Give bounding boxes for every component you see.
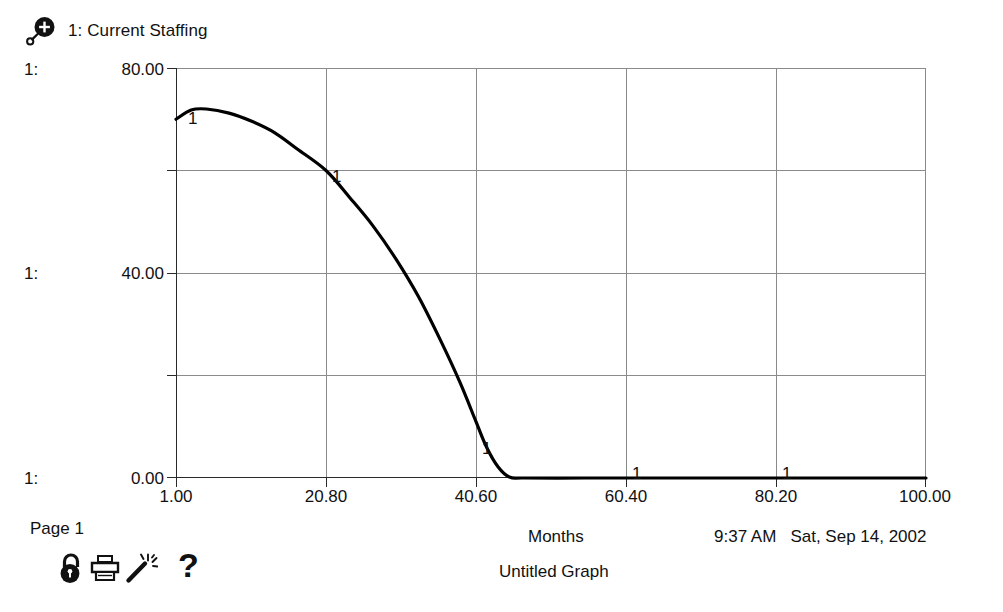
- y-axis-value: 0.00: [68, 469, 164, 489]
- graph-title: Untitled Graph: [499, 562, 609, 582]
- y-series-prefix: 1:: [24, 469, 68, 489]
- legend-label: 1: Current Staffing: [68, 21, 208, 41]
- y-axis-label-80: 1: 80.00: [24, 60, 164, 80]
- toolbar: [56, 551, 158, 589]
- y-tick-20: [167, 375, 176, 376]
- series-marker: 1: [482, 440, 491, 457]
- x-tick-label-20-80: 20.80: [305, 487, 348, 507]
- y-axis-value: 80.00: [68, 60, 164, 80]
- y-tick-40: [167, 273, 176, 274]
- series-marker: 1: [188, 110, 197, 127]
- graph-page: 1: Current Staffing 1: 80.00 1: 40.00 1:…: [0, 0, 1003, 612]
- y-axis-label-0: 1: 0.00: [24, 469, 164, 489]
- y-tick-80: [167, 68, 176, 69]
- y-series-prefix: 1:: [24, 264, 68, 284]
- x-tick-20-80: [326, 478, 327, 487]
- y-tick-0: [167, 477, 176, 478]
- timestamp-time: 9:37 AM: [714, 527, 776, 547]
- series-marker: 1: [632, 465, 641, 482]
- lock-icon[interactable]: [56, 551, 86, 589]
- y-tick-60: [167, 170, 176, 171]
- series-marker: 1: [332, 168, 341, 185]
- x-tick-label-1-00: 1.00: [159, 487, 192, 507]
- x-tick-1-00: [176, 478, 177, 487]
- x-axis-title: Months: [528, 527, 584, 547]
- zoom-in-icon[interactable]: [24, 14, 58, 48]
- x-tick-40-60: [476, 478, 477, 487]
- x-tick-label-40-60: 40.60: [455, 487, 498, 507]
- plot-area: 1 1 1 1 1: [176, 68, 926, 478]
- printer-icon[interactable]: [88, 551, 122, 589]
- x-tick-label-80-20: 80.20: [755, 487, 798, 507]
- x-tick-label-100-00: 100.00: [899, 487, 951, 507]
- series-marker: 1: [782, 465, 791, 482]
- y-axis-value: 40.00: [68, 264, 164, 284]
- timestamp-date: Sat, Sep 14, 2002: [790, 527, 926, 547]
- magic-wand-icon[interactable]: [124, 551, 158, 589]
- help-button[interactable]: ?: [178, 548, 199, 582]
- legend: 1: Current Staffing: [24, 14, 208, 48]
- page-number: Page 1: [30, 519, 84, 539]
- y-series-prefix: 1:: [24, 60, 68, 80]
- x-tick-label-60-40: 60.40: [605, 487, 648, 507]
- series-1-curve: [176, 68, 926, 478]
- timestamp: 9:37 AM Sat, Sep 14, 2002: [714, 527, 926, 547]
- y-axis-label-40: 1: 40.00: [24, 264, 164, 284]
